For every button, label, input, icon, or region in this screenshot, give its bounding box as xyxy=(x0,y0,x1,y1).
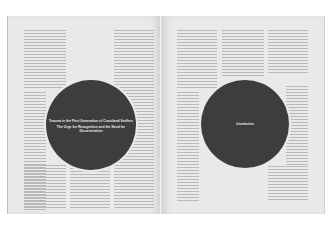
right-text-column-3 xyxy=(268,30,308,75)
article-subtitle: The Urge for Recognition and the Need fo… xyxy=(46,125,136,133)
right-text-column-1-lower xyxy=(177,92,199,202)
right-text-column-3-bottom xyxy=(268,166,308,202)
gutter xyxy=(159,16,162,214)
section-label: Introduction xyxy=(201,122,289,126)
right-text-column-2 xyxy=(222,30,264,78)
left-title-circle: Trauma in the First Generation of Coastl… xyxy=(46,80,136,170)
right-text-column-3-lower xyxy=(286,86,308,166)
left-text-column-1 xyxy=(24,30,66,90)
right-circle: Introduction xyxy=(201,80,289,168)
left-text-column-2-lower xyxy=(70,165,110,210)
left-text-column-1-bottom xyxy=(24,165,66,210)
article-title: Trauma in the First Generation of Coastl… xyxy=(46,119,136,123)
right-text-column-1 xyxy=(177,30,217,90)
